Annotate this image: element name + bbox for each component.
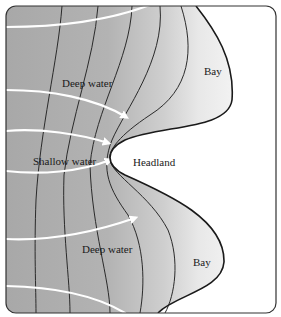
label-deep-water-top: Deep water [62,77,113,89]
label-headland: Headland [133,156,176,168]
label-bay-top: Bay [204,65,222,77]
label-shallow-water: Shallow water [33,155,97,167]
label-deep-water-bottom: Deep water [82,243,133,255]
wave-refraction-diagram: Deep water Shallow water Headland Deep w… [0,0,281,317]
label-bay-bottom: Bay [193,256,211,268]
